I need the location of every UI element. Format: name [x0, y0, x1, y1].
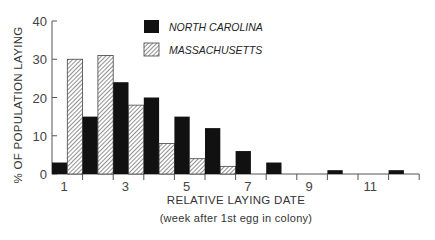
legend: NORTH CAROLINA MASSACHUSETTS [144, 20, 263, 56]
x-tick-label: 7 [244, 179, 251, 194]
x-tick-label: 9 [305, 179, 312, 194]
y-axis: 010203040 [33, 14, 57, 182]
legend-swatch-massachusetts [144, 43, 159, 56]
bar-north-carolina [389, 170, 404, 174]
y-tick-label: 30 [33, 52, 47, 67]
x-axis-title: RELATIVE LAYING DATE [167, 194, 305, 206]
x-tick-label: 11 [363, 179, 377, 194]
bar-north-carolina [327, 170, 342, 174]
legend-label-massachusetts: MASSACHUSETTS [169, 44, 262, 56]
legend-swatch-north-carolina [144, 20, 159, 33]
x-axis-subtitle: (week after 1st egg in colony) [160, 212, 313, 224]
bar-massachusetts [220, 166, 235, 174]
bar-north-carolina [205, 128, 220, 174]
x-axis: 1357911 [52, 174, 419, 194]
x-tick-label: 5 [183, 179, 190, 194]
bar-massachusetts [159, 143, 174, 174]
laying-date-histogram: 010203040 1357911 NORTH CAROLINA MASSACH… [0, 0, 435, 240]
legend-label-north-carolina: NORTH CAROLINA [169, 21, 263, 33]
y-tick-label: 0 [40, 167, 47, 182]
x-tick-label: 1 [61, 179, 68, 194]
bar-north-carolina [174, 117, 189, 174]
y-tick-label: 10 [33, 129, 47, 144]
bar-north-carolina [113, 82, 128, 174]
bar-massachusetts [67, 59, 82, 174]
bar-north-carolina [266, 163, 281, 174]
bar-massachusetts [98, 55, 113, 174]
x-tick-label: 3 [122, 179, 129, 194]
bars [52, 55, 404, 174]
y-tick-label: 40 [33, 14, 47, 29]
y-axis-title: % OF POPULATION LAYING [12, 27, 24, 184]
bar-north-carolina [83, 117, 98, 174]
bar-massachusetts [190, 159, 205, 174]
y-tick-label: 20 [33, 91, 47, 106]
bar-north-carolina [52, 163, 67, 174]
bar-north-carolina [144, 98, 159, 175]
bar-north-carolina [236, 151, 251, 174]
bar-massachusetts [129, 105, 144, 174]
